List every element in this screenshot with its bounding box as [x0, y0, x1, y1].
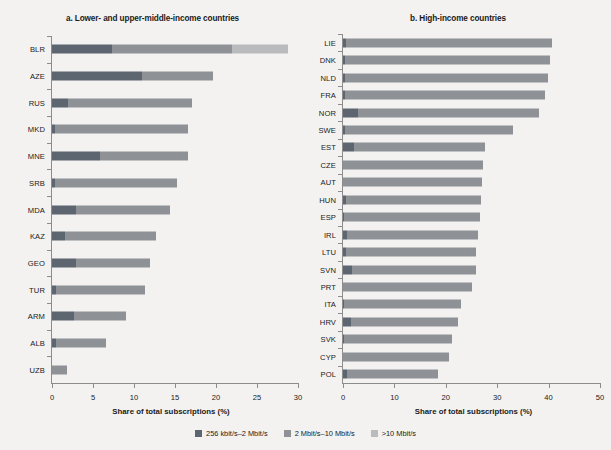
- bar-segment: [343, 178, 482, 187]
- panel-b-x-axis: [342, 383, 601, 384]
- y-axis-category-label: GEO: [28, 258, 45, 267]
- legend-item: 2 Mbit/s–10 Mbit/s: [284, 429, 355, 438]
- panel-a-title: a. Lower- and upper-middle-income countr…: [0, 14, 305, 23]
- y-axis-category-label: IRL: [324, 230, 336, 239]
- y-axis-tick: [338, 34, 343, 35]
- y-axis-category-label: SVK: [321, 335, 337, 344]
- y-axis-tick: [338, 331, 343, 332]
- bar-segment: [52, 72, 142, 81]
- chart-legend: 256 kbit/s–2 Mbit/s2 Mbit/s–10 Mbit/s>10…: [0, 429, 611, 438]
- bar-segment: [55, 125, 188, 134]
- y-axis-tick: [47, 303, 52, 304]
- y-axis-category-label: NOR: [319, 108, 336, 117]
- bar-stack: [52, 72, 298, 81]
- figure-canvas: a. Lower- and upper-middle-income countr…: [0, 0, 611, 450]
- bar-stack: [52, 152, 298, 161]
- bar-stack: [52, 45, 298, 54]
- bar-segment: [345, 56, 550, 65]
- bar-segment: [232, 45, 288, 54]
- y-axis-tick: [338, 156, 343, 157]
- legend-swatch-icon: [195, 430, 202, 437]
- y-axis-tick: [338, 296, 343, 297]
- y-axis-tick: [338, 243, 343, 244]
- panel-b-x-axis-title: Share of total subscriptions (%): [345, 407, 602, 416]
- bar-segment: [52, 365, 67, 374]
- bar-stack: [343, 108, 600, 117]
- y-axis-category-label: FRA: [321, 91, 337, 100]
- y-axis-category-label: NLD: [321, 73, 337, 82]
- bar-segment: [52, 205, 76, 214]
- bar-stack: [343, 265, 600, 274]
- bar-stack: [343, 56, 600, 65]
- y-axis-category-label: RUS: [29, 98, 45, 107]
- y-axis-tick: [338, 69, 343, 70]
- y-axis-tick: [47, 63, 52, 64]
- y-axis-category-label: LIE: [324, 38, 336, 47]
- y-axis-tick: [47, 196, 52, 197]
- bar-segment: [346, 248, 477, 257]
- x-axis-tick: [175, 383, 176, 388]
- y-axis-tick: [47, 276, 52, 277]
- y-axis-category-label: MDA: [28, 205, 45, 214]
- x-axis-tick-label: 0: [341, 393, 345, 402]
- x-axis-tick-label: 25: [253, 393, 261, 402]
- legend-swatch-icon: [284, 430, 291, 437]
- panel-b-title: b. High-income countries: [305, 14, 611, 23]
- y-axis-category-label: HRV: [320, 317, 336, 326]
- bar-segment: [343, 160, 483, 169]
- y-axis-tick: [338, 209, 343, 210]
- bar-segment: [52, 152, 100, 161]
- y-axis-tick: [47, 250, 52, 251]
- y-axis-category-label: ITA: [324, 300, 336, 309]
- bar-stack: [52, 365, 298, 374]
- bar-stack: [343, 73, 600, 82]
- y-axis-tick: [338, 366, 343, 367]
- y-axis-category-label: SRB: [29, 178, 45, 187]
- chart-panel-b: b. High-income countries Share of total …: [305, 0, 611, 450]
- y-axis-tick: [338, 104, 343, 105]
- bar-stack: [52, 125, 298, 134]
- y-axis-tick: [47, 36, 52, 37]
- y-axis-category-label: DNK: [320, 56, 336, 65]
- y-axis-tick: [338, 313, 343, 314]
- x-axis-tick-label: 0: [50, 393, 54, 402]
- x-axis-tick: [600, 383, 601, 388]
- y-axis-category-label: LTU: [322, 248, 336, 257]
- bar-segment: [55, 178, 177, 187]
- y-axis-category-label: ALB: [30, 338, 45, 347]
- y-axis-category-label: POL: [321, 370, 337, 379]
- bar-segment: [347, 230, 478, 239]
- bar-stack: [52, 338, 298, 347]
- x-axis-tick: [298, 383, 299, 388]
- bar-segment: [352, 265, 476, 274]
- x-axis-tick-label: 50: [596, 393, 604, 402]
- y-axis-tick: [338, 121, 343, 122]
- bar-segment: [52, 232, 65, 241]
- x-axis-tick: [93, 383, 94, 388]
- y-axis-tick: [338, 261, 343, 262]
- bar-segment: [344, 335, 452, 344]
- bar-segment: [354, 143, 485, 152]
- panel-b-plot-area: Share of total subscriptions (%) 0102030…: [343, 34, 600, 383]
- y-axis-tick: [338, 174, 343, 175]
- bar-segment: [52, 258, 76, 267]
- x-axis-tick: [497, 383, 498, 388]
- y-axis-tick: [47, 169, 52, 170]
- panel-a-plot-area: Share of total subscriptions (%) 0510152…: [52, 36, 298, 383]
- bar-segment: [351, 317, 458, 326]
- y-axis-category-label: ARM: [28, 312, 45, 321]
- bar-stack: [343, 38, 600, 47]
- bar-segment: [56, 338, 106, 347]
- bar-segment: [347, 370, 437, 379]
- y-axis-category-label: CZE: [321, 160, 337, 169]
- x-axis-tick: [257, 383, 258, 388]
- x-axis-tick: [446, 383, 447, 388]
- y-axis-tick: [338, 191, 343, 192]
- bar-segment: [346, 195, 482, 204]
- bar-segment: [65, 232, 156, 241]
- y-axis-category-label: HUN: [319, 195, 336, 204]
- bar-stack: [52, 285, 298, 294]
- bar-segment: [52, 98, 68, 107]
- x-axis-tick-label: 30: [493, 393, 501, 402]
- x-axis-tick: [216, 383, 217, 388]
